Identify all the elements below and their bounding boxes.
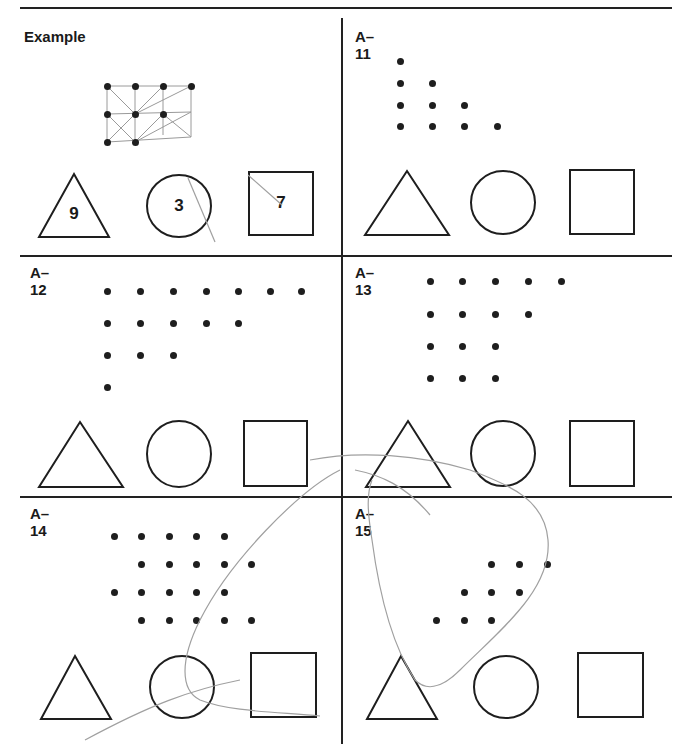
dot	[516, 561, 523, 568]
dot	[492, 375, 499, 382]
dot	[104, 111, 111, 118]
dot	[193, 533, 200, 540]
pencil-scribble	[0, 0, 686, 749]
dot	[104, 139, 111, 146]
circle-answer-box[interactable]	[149, 655, 215, 719]
dot	[429, 123, 436, 130]
triangle-answer: 9	[38, 204, 110, 224]
dot	[298, 288, 305, 295]
dot	[104, 288, 111, 295]
dot	[170, 288, 177, 295]
dot	[221, 617, 228, 624]
triangle-answer-box[interactable]	[365, 420, 451, 488]
circle-answer-box[interactable]	[470, 170, 536, 235]
dot	[104, 83, 111, 90]
dot	[138, 589, 145, 596]
dot	[132, 139, 139, 146]
dot	[138, 617, 145, 624]
dot	[494, 123, 501, 130]
vertical-divider	[341, 18, 343, 744]
circle-answer-box[interactable]: 3	[146, 174, 212, 238]
panel-label: A–14	[30, 505, 49, 539]
dot	[461, 617, 468, 624]
square-answer-box[interactable]	[250, 652, 317, 718]
dot	[397, 102, 404, 109]
dot	[492, 278, 499, 285]
dot	[459, 343, 466, 350]
dot	[492, 311, 499, 318]
square-answer-box[interactable]	[569, 420, 635, 487]
dot	[104, 384, 111, 391]
top-rule	[20, 7, 672, 9]
panel-label: A–12	[30, 264, 49, 298]
dot	[166, 561, 173, 568]
dot	[193, 617, 200, 624]
dot	[193, 589, 200, 596]
dot	[461, 123, 468, 130]
circle-answer-box[interactable]	[146, 420, 212, 488]
dot	[433, 617, 440, 624]
panel-label: A–11	[355, 28, 374, 62]
dot	[488, 561, 495, 568]
dot	[188, 83, 195, 90]
dot	[429, 102, 436, 109]
dot	[193, 561, 200, 568]
triangle-answer-box[interactable]	[38, 421, 124, 488]
dot	[397, 80, 404, 87]
square-answer: 7	[248, 193, 314, 213]
dot	[132, 111, 139, 118]
dot	[544, 561, 551, 568]
dot	[525, 278, 532, 285]
dot	[111, 533, 118, 540]
dot	[203, 320, 210, 327]
dot	[132, 83, 139, 90]
horizontal-divider-2	[20, 496, 672, 498]
circle-answer-box[interactable]	[473, 655, 539, 719]
dot	[203, 288, 210, 295]
dot	[235, 320, 242, 327]
dot	[558, 278, 565, 285]
dot	[459, 375, 466, 382]
dot	[461, 102, 468, 109]
square-answer-box[interactable]	[243, 420, 308, 487]
dot	[459, 311, 466, 318]
triangle-answer-box[interactable]	[364, 170, 450, 236]
dot	[166, 617, 173, 624]
dot	[488, 589, 495, 596]
dot	[461, 589, 468, 596]
dot	[138, 561, 145, 568]
dot	[166, 589, 173, 596]
dot	[111, 589, 118, 596]
circle-answer: 3	[146, 196, 212, 216]
panel-label: A–15	[355, 505, 374, 539]
triangle-answer-box[interactable]: 9	[38, 173, 110, 238]
square-answer-box[interactable]	[577, 652, 644, 718]
dot	[429, 80, 436, 87]
dot	[138, 533, 145, 540]
dot	[397, 123, 404, 130]
dot	[492, 343, 499, 350]
pencil-grid-sketch	[100, 80, 200, 155]
triangle-answer-box[interactable]	[40, 655, 112, 720]
dot	[427, 343, 434, 350]
dot	[427, 311, 434, 318]
dot	[160, 83, 167, 90]
dot	[104, 352, 111, 359]
dot	[459, 278, 466, 285]
dot	[488, 617, 495, 624]
dot	[267, 288, 274, 295]
dot	[397, 58, 404, 65]
horizontal-divider-1	[20, 255, 672, 257]
square-answer-box[interactable]: 7	[248, 171, 314, 236]
dot	[427, 278, 434, 285]
dot	[248, 617, 255, 624]
panel-label: A–13	[355, 264, 374, 298]
dot	[166, 533, 173, 540]
square-answer-box[interactable]	[569, 169, 635, 235]
circle-answer-box[interactable]	[470, 420, 536, 487]
dot	[235, 288, 242, 295]
dot	[160, 111, 167, 118]
dot	[221, 589, 228, 596]
triangle-answer-box[interactable]	[366, 655, 438, 720]
dot	[137, 320, 144, 327]
